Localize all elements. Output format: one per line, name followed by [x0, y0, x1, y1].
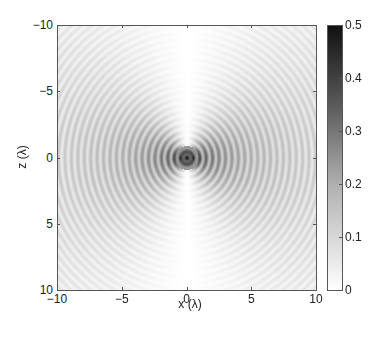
- y-axis-label: z (λ): [15, 145, 29, 168]
- x-tick-label: −10: [37, 293, 77, 305]
- y-tick-mark: [57, 224, 60, 225]
- y-tick-label: −10: [13, 19, 53, 31]
- colorbar-tick-label: 0.3: [345, 125, 362, 137]
- x-axis-label: x (λ): [170, 297, 210, 311]
- x-tick-mark: [122, 25, 123, 28]
- colorbar-tick-mark: [339, 290, 342, 291]
- colorbar: [327, 25, 343, 291]
- x-tick-label: −5: [102, 293, 142, 305]
- heatmap-image: [58, 26, 316, 290]
- y-tick-label: 5: [13, 218, 53, 230]
- x-tick-mark: [251, 287, 252, 290]
- colorbar-tick-label: 0.5: [345, 19, 362, 31]
- x-tick-mark: [316, 287, 317, 290]
- colorbar-tick-mark: [339, 78, 342, 79]
- y-tick-mark: [313, 158, 316, 159]
- y-tick-mark: [57, 91, 60, 92]
- y-tick-mark: [57, 290, 60, 291]
- x-tick-mark: [316, 25, 317, 28]
- colorbar-tick-label: 0.4: [345, 72, 362, 84]
- colorbar-tick-mark: [339, 184, 342, 185]
- colorbar-tick-label: 0.1: [345, 231, 362, 243]
- y-tick-mark: [313, 91, 316, 92]
- colorbar-tick-label: 0: [345, 284, 352, 296]
- x-tick-label: 5: [231, 293, 271, 305]
- colorbar-tick-mark: [339, 131, 342, 132]
- x-tick-mark: [57, 287, 58, 290]
- x-tick-mark: [251, 25, 252, 28]
- x-tick-mark: [187, 25, 188, 28]
- y-tick-mark: [313, 290, 316, 291]
- y-tick-label: −5: [13, 85, 53, 97]
- x-tick-mark: [122, 287, 123, 290]
- x-tick-mark: [187, 287, 188, 290]
- colorbar-tick-label: 0.2: [345, 178, 362, 190]
- colorbar-tick-mark: [339, 237, 342, 238]
- x-tick-label: 10: [296, 293, 336, 305]
- y-tick-mark: [57, 158, 60, 159]
- y-tick-mark: [313, 224, 316, 225]
- colorbar-tick-mark: [339, 25, 342, 26]
- heatmap-plot-area: [57, 25, 317, 291]
- x-tick-mark: [57, 25, 58, 28]
